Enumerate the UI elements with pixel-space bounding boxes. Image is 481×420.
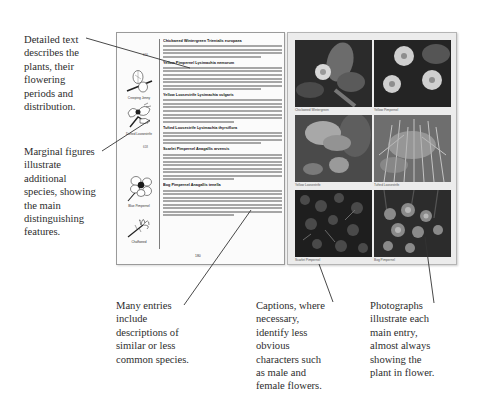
annotation-line: almost always xyxy=(370,339,434,352)
entry-heading: Scarlet Pimpernel Anagallis arvensis xyxy=(163,147,282,152)
entry-heading: Yellow Pimpernel Lysimachia nemorum xyxy=(163,61,282,66)
species-entry: Scarlet Pimpernel Anagallis arvensis xyxy=(163,147,282,180)
annotation-line: flowering xyxy=(24,73,79,86)
annotation-line: Captions, where xyxy=(256,299,325,312)
annotation-line: as male and xyxy=(256,366,325,379)
annotation-line: main entry, xyxy=(370,326,434,339)
figure-caption: Creeping Jenny xyxy=(123,96,155,100)
annotation-line: obvious xyxy=(256,339,325,352)
page-number: 180 xyxy=(195,254,201,258)
photo-caption: Tufted Loosestrife xyxy=(374,183,399,187)
entry-heading: Yellow Loosestrife Lysimachia vulgaris xyxy=(163,93,282,98)
annotation-line: similar or less xyxy=(116,339,189,352)
small-sprig-icon xyxy=(125,213,153,239)
annotation-line: features. xyxy=(24,225,96,238)
margin-reference-number: 616 xyxy=(143,53,148,57)
annotation-line: plant in flower. xyxy=(370,366,434,379)
species-entry: Yellow Pimpernel Lysimachia nemorum xyxy=(163,61,282,90)
figure-caption: Dotted Loosestrife xyxy=(123,132,155,136)
ground-cover-photo-icon xyxy=(374,190,451,257)
species-photo xyxy=(295,190,372,257)
photo-caption: Yellow Loosestrife xyxy=(295,183,321,187)
annotation-line: showing the xyxy=(370,353,434,366)
annotation-line: the main xyxy=(24,199,96,212)
species-photo xyxy=(374,40,451,107)
annotation-line: illustrate each xyxy=(370,312,434,325)
margin-figure: Creeping Jenny xyxy=(123,69,155,100)
annotation-line: periods and xyxy=(24,87,79,100)
annotation-captions: Captions, where necessary, identify less… xyxy=(256,299,325,393)
annotation-detailed-text: Detailed text describes the plants, thei… xyxy=(24,33,79,113)
flower-cluster-icon xyxy=(124,101,154,131)
margin-figure: Blue Pimpernel xyxy=(123,173,155,208)
annotation-line: additional xyxy=(24,172,96,185)
annotation-line: Photographs xyxy=(370,299,434,312)
book-spread: 616 618 Creeping Jenny Dotted Loosestri xyxy=(116,32,457,265)
species-entry: Bog Pimpernel Anagallis tenella xyxy=(163,183,282,216)
left-page: 616 618 Creeping Jenny Dotted Loosestri xyxy=(116,32,285,265)
annotation-line: female flowers. xyxy=(256,379,325,392)
photo-caption: Bog Pimpernel xyxy=(374,258,395,262)
species-text-column: Chickweed Wintergreen Trientalis europae… xyxy=(163,39,282,219)
annotation-line: Detailed text xyxy=(24,33,79,46)
entry-heading: Bog Pimpernel Anagallis tenella xyxy=(163,183,282,188)
species-photo xyxy=(295,115,372,182)
species-photo xyxy=(374,115,451,182)
species-entry: Chickweed Wintergreen Trientalis europae… xyxy=(163,39,282,58)
species-entry: Tufted Loosestrife Lysimachia thyrsiflor… xyxy=(163,126,282,145)
flower-photo-icon xyxy=(295,40,372,107)
flower-photo-icon xyxy=(295,115,372,182)
margin-figure: Dotted Loosestrife xyxy=(123,101,155,136)
annotation-line: descriptions of xyxy=(116,326,189,339)
annotation-line: illustrate xyxy=(24,158,96,171)
species-photo xyxy=(374,190,451,257)
annotation-line: plants, their xyxy=(24,60,79,73)
annotation-marginal-figures: Marginal figures illustrate additional s… xyxy=(24,145,96,239)
margin-divider xyxy=(159,39,160,249)
leader-line-captions xyxy=(319,264,333,302)
right-page: Chickweed Wintergreen Yellow Pimpernel xyxy=(287,32,457,265)
annotation-photographs: Photographs illustrate each main entry, … xyxy=(370,299,434,379)
grass-photo-icon xyxy=(374,115,451,182)
annotation-line: common species. xyxy=(116,353,189,366)
annotation-line: necessary, xyxy=(256,312,325,325)
annotation-line: Many entries xyxy=(116,299,189,312)
annotation-line: distinguishing xyxy=(24,212,96,225)
annotation-many-entries: Many entries include descriptions of sim… xyxy=(116,299,189,366)
leaf-sprig-icon xyxy=(125,69,153,95)
annotation-line: identify less xyxy=(256,326,325,339)
photo-caption: Chickweed Wintergreen xyxy=(295,108,329,112)
figure-caption: Chaffweed xyxy=(123,240,155,244)
annotation-line: include xyxy=(116,312,189,325)
annotation-line: distribution. xyxy=(24,100,79,113)
photo-caption: Scarlet Pimpernel xyxy=(295,258,320,262)
photo-caption: Yellow Pimpernel xyxy=(374,108,398,112)
species-entry: Yellow Loosestrife Lysimachia vulgaris xyxy=(163,93,282,122)
margin-reference-number: 618 xyxy=(143,145,148,149)
flower-photo-icon xyxy=(374,40,451,107)
five-petal-flower-icon xyxy=(124,173,154,203)
annotation-line: describes the xyxy=(24,46,79,59)
annotation-line: characters such xyxy=(256,353,325,366)
species-photo xyxy=(295,40,372,107)
annotation-line: Marginal figures xyxy=(24,145,96,158)
margin-figure: Chaffweed xyxy=(123,213,155,244)
entry-heading: Chickweed Wintergreen Trientalis europae… xyxy=(163,39,282,44)
annotation-line: species, showing xyxy=(24,185,96,198)
ground-cover-photo-icon xyxy=(295,190,372,257)
figure-caption: Blue Pimpernel xyxy=(123,204,155,208)
entry-heading: Tufted Loosestrife Lysimachia thyrsiflor… xyxy=(163,126,282,131)
